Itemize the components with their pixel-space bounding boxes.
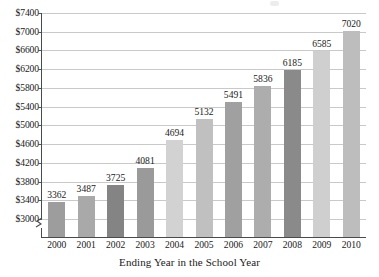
- bar: [48, 202, 65, 237]
- bar-value-label: 6185: [275, 58, 309, 68]
- x-axis-tick-labels: 2000200120022003200420052006200720082009…: [42, 239, 366, 253]
- x-axis-title: Ending Year in the School Year: [0, 256, 379, 268]
- x-axis-line: [41, 237, 366, 238]
- bar: [313, 51, 330, 237]
- axis-break-icon: [35, 216, 49, 230]
- bar-value-label: 5132: [187, 107, 221, 117]
- x-axis-tick-label: 2002: [101, 239, 131, 251]
- plot-area: 3362348737254081469451325491583661856585…: [42, 13, 366, 236]
- y-axis-tick-label: $6600: [16, 45, 40, 55]
- bar-chart: $7400$7000$6600$6200$5800$5400$5000$4600…: [0, 0, 379, 277]
- x-axis-tick-label: 2001: [71, 239, 101, 251]
- gridline: [42, 13, 366, 14]
- x-axis-tick-label: 2005: [189, 239, 219, 251]
- y-axis-tick-label: $7000: [16, 27, 40, 37]
- x-axis-tick-label: 2007: [248, 239, 278, 251]
- y-axis-tick-labels: $7400$7000$6600$6200$5800$5400$5000$4600…: [0, 0, 42, 240]
- y-axis-tick-label: $7400: [16, 8, 40, 18]
- bar: [343, 31, 360, 237]
- y-axis-tick-label: $3400: [16, 195, 40, 205]
- bar: [254, 86, 271, 237]
- scan-artifact: [270, 1, 279, 6]
- y-axis-tick-label: $5400: [16, 102, 40, 112]
- y-axis-tick-label: $6200: [16, 64, 40, 74]
- y-axis-tick-label: $3800: [16, 177, 40, 187]
- bar: [225, 102, 242, 237]
- bar-value-label: 3487: [69, 184, 103, 194]
- bar: [166, 140, 183, 237]
- y-axis-tick-label: $4600: [16, 139, 40, 149]
- x-axis-tick-label: 2010: [336, 239, 366, 251]
- y-axis-line: [41, 13, 42, 219]
- x-axis-tick-label: 2003: [130, 239, 160, 251]
- x-axis-tick-label: 2000: [42, 239, 72, 251]
- x-axis-tick-label: 2008: [277, 239, 307, 251]
- gridline: [42, 32, 366, 33]
- x-axis-tick-label: 2004: [160, 239, 190, 251]
- bar: [107, 185, 124, 237]
- y-axis-tick-label: $5000: [16, 120, 40, 130]
- bar-value-label: 7020: [334, 19, 368, 29]
- x-axis-tick-label: 2009: [307, 239, 337, 251]
- y-axis-tick-label: $5800: [16, 83, 40, 93]
- bar-value-label: 5491: [216, 90, 250, 100]
- bar-value-label: 5836: [246, 74, 280, 84]
- y-axis-tick-label: $4200: [16, 158, 40, 168]
- bar-value-label: 3725: [99, 173, 133, 183]
- bar-value-label: 4694: [158, 128, 192, 138]
- bar: [137, 168, 154, 237]
- bar-value-label: 6585: [305, 39, 339, 49]
- bar: [196, 119, 213, 237]
- bar: [78, 196, 95, 237]
- x-axis-tick-label: 2006: [218, 239, 248, 251]
- bar: [284, 70, 301, 237]
- bar-value-label: 4081: [128, 156, 162, 166]
